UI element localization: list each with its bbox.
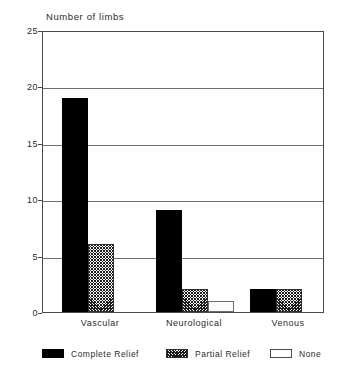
- bar: [88, 244, 114, 312]
- bar: [156, 210, 182, 312]
- legend-swatch: [166, 349, 188, 358]
- y-tick-label: 25: [27, 26, 38, 36]
- x-tick-label: Venous: [271, 318, 304, 328]
- legend-item: Partial Relief: [166, 347, 250, 360]
- legend-swatch: [42, 349, 64, 358]
- chart-title: Number of limbs: [46, 11, 124, 22]
- y-axis: 0510152025: [0, 0, 38, 368]
- chart-legend: Complete ReliefPartial ReliefNone: [42, 347, 332, 361]
- legend-item: Complete Relief: [42, 347, 139, 360]
- plot-area: [42, 31, 324, 313]
- bars-layer: [43, 32, 323, 312]
- bar: [208, 301, 234, 312]
- legend-label: Complete Relief: [71, 349, 139, 359]
- x-tick-label: Vascular: [81, 318, 119, 328]
- y-tick-mark: [38, 313, 42, 314]
- y-tick-label: 10: [27, 195, 38, 205]
- legend-swatch: [270, 349, 292, 358]
- x-tick-label: Neurological: [166, 318, 222, 328]
- bar-chart: Number of limbs 0510152025 VascularNeuro…: [0, 0, 343, 368]
- legend-item: None: [270, 347, 321, 360]
- legend-label: Partial Relief: [195, 349, 250, 359]
- y-tick-label: 15: [27, 139, 38, 149]
- bar: [62, 98, 88, 312]
- y-tick-label: 20: [27, 82, 38, 92]
- bar: [276, 289, 302, 312]
- bar: [182, 289, 208, 312]
- bar: [250, 289, 276, 312]
- legend-label: None: [299, 349, 321, 359]
